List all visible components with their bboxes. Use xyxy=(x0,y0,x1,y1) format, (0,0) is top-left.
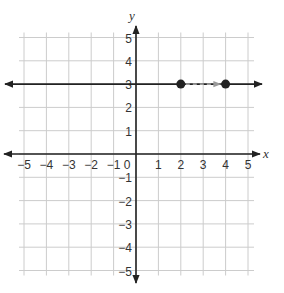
x-tick-label: 1 xyxy=(155,158,162,172)
x-tick-label: 5 xyxy=(245,158,252,172)
axes xyxy=(4,26,260,283)
x-tick-label: 3 xyxy=(200,158,207,172)
tick-labels: −5−4−3−2−101234554321−1−2−3−4−5 xyxy=(17,32,252,279)
point-marker xyxy=(176,80,185,89)
x-axis-label: x xyxy=(262,146,269,161)
x-tick-label: −3 xyxy=(62,158,76,172)
coordinate-plane: −5−4−3−2−101234554321−1−2−3−4−5 x y xyxy=(0,0,284,293)
y-tick-label: 5 xyxy=(125,32,132,46)
y-tick-label: −2 xyxy=(118,195,132,209)
y-tick-label: 3 xyxy=(125,78,132,92)
x-tick-label: 2 xyxy=(177,158,184,172)
y-tick-label: −1 xyxy=(118,171,132,185)
y-tick-label: 2 xyxy=(125,101,132,115)
y-axis-label: y xyxy=(127,8,135,23)
y-tick-label: 1 xyxy=(125,125,132,139)
x-tick-label: 0 xyxy=(124,158,131,172)
x-tick-label: 4 xyxy=(222,158,229,172)
x-tick-label: −2 xyxy=(84,158,98,172)
x-tick-label: −5 xyxy=(17,158,31,172)
point-marker xyxy=(221,80,230,89)
y-tick-label: −3 xyxy=(118,218,132,232)
y-tick-label: −5 xyxy=(118,265,132,279)
y-tick-label: −4 xyxy=(118,241,132,255)
y-tick-label: 4 xyxy=(125,55,132,69)
x-tick-label: −1 xyxy=(107,158,121,172)
x-tick-label: −4 xyxy=(40,158,54,172)
